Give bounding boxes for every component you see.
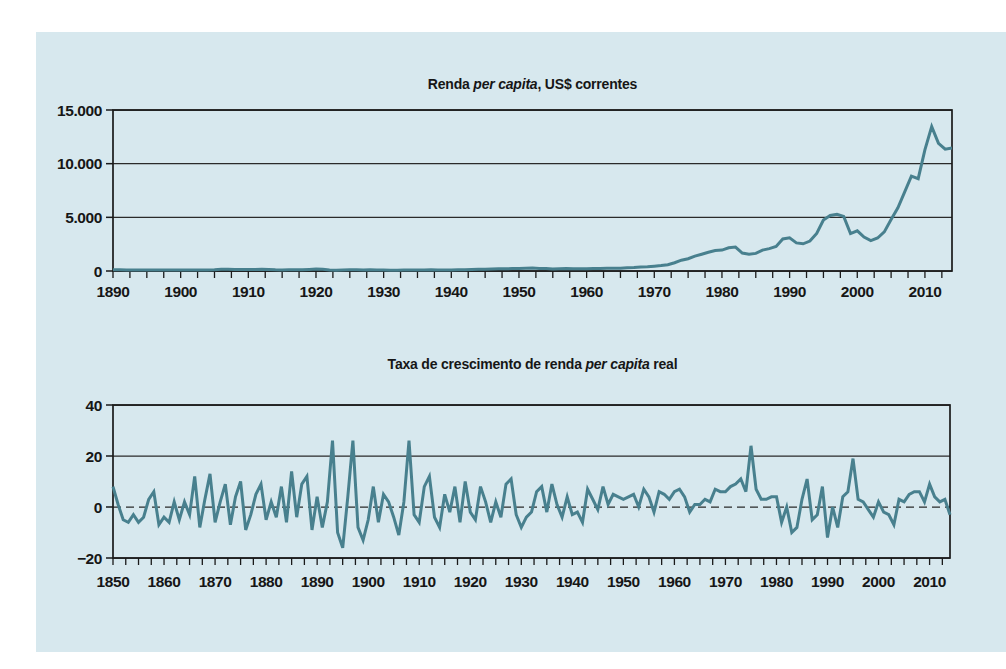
x-tick-label: 1850	[97, 573, 130, 590]
x-tick-label: 1960	[570, 283, 603, 300]
chart-bottom-title-pre: Taxa de crescimento de renda	[388, 356, 586, 372]
x-tick-label: 2010	[908, 283, 941, 300]
chart-bottom-title-italic: per capita	[585, 356, 649, 372]
y-tick-label: −20	[77, 550, 102, 567]
x-tick-label: 1890	[301, 573, 334, 590]
x-tick-label: 1950	[503, 283, 536, 300]
x-tick-label: 1970	[709, 573, 742, 590]
x-tick-label: 1920	[300, 283, 333, 300]
x-tick-label: 2000	[862, 573, 895, 590]
y-tick-label: 5.000	[65, 209, 102, 226]
chart-top-title-post: , US$ correntes	[537, 76, 637, 92]
figure-panel: Renda per capita, US$ correntes 05.00010…	[36, 32, 1006, 652]
x-tick-label: 1920	[454, 573, 487, 590]
x-tick-label: 2010	[913, 573, 946, 590]
x-tick-label: 1930	[367, 283, 400, 300]
x-tick-label: 1970	[638, 283, 671, 300]
y-tick-label: 0	[94, 263, 102, 280]
x-tick-label: 1950	[607, 573, 640, 590]
chart-top-title-italic: per capita	[473, 76, 537, 92]
chart-top-title-pre: Renda	[428, 76, 473, 92]
x-tick-label: 1980	[706, 283, 739, 300]
x-tick-label: 1980	[760, 573, 793, 590]
x-tick-label: 1910	[232, 283, 265, 300]
chart-bottom-svg: −200204018501860187018801890190019101920…	[38, 390, 988, 620]
x-tick-label: 1860	[148, 573, 181, 590]
plot-frame	[113, 110, 952, 271]
y-tick-label: 15.000	[57, 102, 102, 119]
x-tick-label: 1900	[352, 573, 385, 590]
x-tick-label: 1890	[97, 283, 130, 300]
x-tick-label: 1880	[250, 573, 283, 590]
x-tick-label: 1870	[199, 573, 232, 590]
x-tick-label: 1940	[435, 283, 468, 300]
plot-frame	[113, 405, 950, 558]
series-line	[113, 127, 952, 271]
chart-bottom-title: Taxa de crescimento de renda per capita …	[113, 356, 952, 372]
x-tick-label: 1900	[164, 283, 197, 300]
y-tick-label: 10.000	[57, 155, 102, 172]
y-tick-label: 0	[94, 499, 102, 516]
x-tick-label: 1930	[505, 573, 538, 590]
x-tick-label: 2000	[841, 283, 874, 300]
y-tick-label: 20	[86, 448, 102, 465]
x-tick-label: 1990	[773, 283, 806, 300]
x-tick-label: 1990	[811, 573, 844, 590]
y-tick-label: 40	[86, 397, 102, 414]
chart-top-svg: 05.00010.00015.0001890190019101920193019…	[38, 95, 988, 315]
x-tick-label: 1910	[403, 573, 436, 590]
chart-top-title: Renda per capita, US$ correntes	[113, 76, 952, 92]
x-tick-label: 1960	[658, 573, 691, 590]
chart-bottom-title-post: real	[650, 356, 678, 372]
series-line	[113, 441, 950, 548]
x-tick-label: 1940	[556, 573, 589, 590]
